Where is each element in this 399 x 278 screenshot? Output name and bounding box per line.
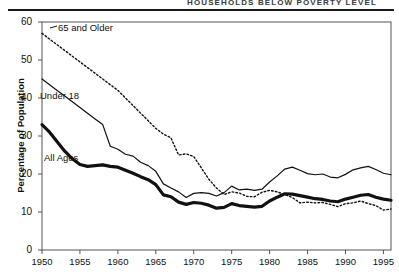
series-label-65-and-older: 65 and Older	[58, 22, 113, 33]
leader-65-and-older	[50, 26, 57, 28]
series-label-all-ages: All Ages	[44, 152, 78, 163]
plot-frame	[42, 22, 391, 250]
series-line-65-and-older	[42, 33, 391, 210]
series-label-under-18: Under 18	[40, 90, 79, 101]
series-line-under-18	[42, 79, 391, 198]
